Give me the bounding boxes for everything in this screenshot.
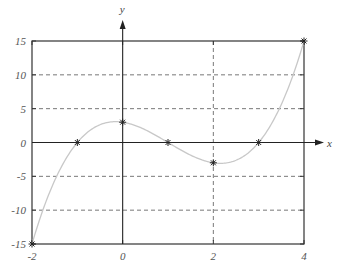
data-point-marker	[210, 159, 217, 166]
x-tick-label: -2	[27, 250, 37, 262]
x-tick-label: 0	[120, 250, 126, 262]
y-tick-label: 10	[15, 69, 27, 81]
y-tick-label: -10	[11, 204, 26, 216]
x-tick-label: 2	[211, 250, 217, 262]
truncated-caption	[0, 268, 340, 280]
y-axis-arrow-icon	[120, 20, 126, 29]
data-point-marker	[29, 241, 36, 248]
y-tick-label: 5	[21, 103, 27, 115]
y-tick-label: 0	[21, 137, 27, 149]
tick-labels: -15-10-5051015-2024	[11, 35, 307, 262]
y-axis-label: y	[119, 3, 125, 15]
data-point-marker	[255, 139, 262, 146]
data-point-marker	[74, 139, 81, 146]
data-point-marker	[119, 119, 126, 126]
x-axis-arrow-icon	[315, 140, 324, 146]
y-tick-label: -5	[17, 170, 27, 182]
x-tick-label: 4	[301, 250, 307, 262]
data-point-marker	[165, 139, 172, 146]
x-axis-label: x	[326, 137, 332, 149]
data-point-marker	[301, 38, 308, 45]
y-tick-label: 15	[15, 35, 27, 47]
chart: -15-10-5051015-2024 x y	[0, 0, 340, 280]
y-tick-label: -15	[11, 238, 26, 250]
